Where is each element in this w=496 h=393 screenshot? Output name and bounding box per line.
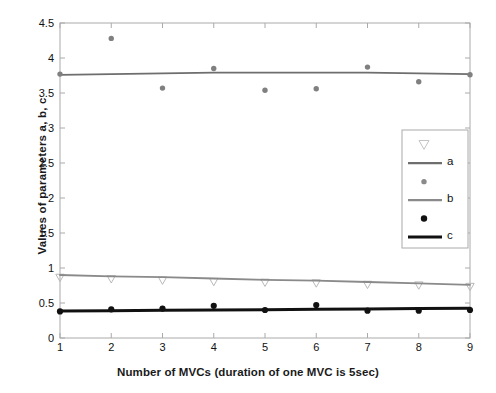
marker-b-markers xyxy=(365,64,370,69)
marker-b-markers xyxy=(262,88,267,93)
series-line-a xyxy=(60,73,470,75)
legend-box xyxy=(402,130,468,248)
legend-label-c: c xyxy=(447,229,453,241)
marker-c-markers xyxy=(211,303,217,309)
marker-b-markers xyxy=(416,79,421,84)
marker-b-markers xyxy=(109,36,114,41)
series-line-c xyxy=(60,308,470,311)
marker-c-markers xyxy=(313,302,319,308)
legend-filled-circle-icon xyxy=(421,215,427,221)
marker-a-markers xyxy=(158,277,166,284)
series-line-b xyxy=(60,275,470,285)
plot-area xyxy=(0,0,496,393)
marker-b-markers xyxy=(314,86,319,91)
chart-figure: Values of parameters a, b, c Number of M… xyxy=(0,0,496,393)
marker-b-markers xyxy=(160,85,165,90)
legend-label-a: a xyxy=(447,155,453,167)
marker-b-markers xyxy=(211,66,216,71)
legend-circle-icon xyxy=(421,179,426,184)
marker-b-markers xyxy=(57,71,62,76)
legend-label-b: b xyxy=(447,192,453,204)
marker-a-markers xyxy=(210,278,218,285)
marker-b-markers xyxy=(467,72,472,77)
